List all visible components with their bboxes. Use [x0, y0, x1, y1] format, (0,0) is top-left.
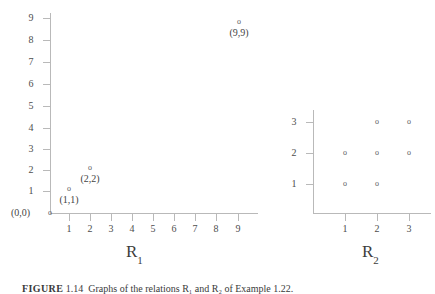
figure-caption-text: Graphs of the relations R₁ and R₂ of Exa… — [88, 283, 293, 294]
r1-origin-marker: o — [45, 209, 55, 217]
r1-x-tick — [238, 214, 239, 221]
r2-y-axis-line — [313, 110, 314, 214]
r2-x-tick-label: 1 — [338, 224, 352, 234]
r1-y-tick-label: 2 — [24, 165, 38, 175]
figure-caption-number: 1.14 — [66, 283, 84, 294]
r1-data-point-label: (2,2) — [75, 174, 105, 184]
r2-data-point: o — [372, 118, 382, 126]
r1-x-tick-label: 9 — [231, 224, 245, 234]
r2-x-axis-line — [313, 213, 431, 214]
r1-x-tick — [174, 214, 175, 221]
r2-x-tick — [377, 214, 378, 221]
r1-y-axis-line — [50, 13, 51, 214]
r1-y-tick-label: 7 — [24, 57, 38, 67]
r1-axis-title-subscript: 1 — [137, 254, 143, 266]
r1-data-point-label: (9,9) — [224, 28, 254, 38]
r1-x-tick-label: 2 — [83, 224, 97, 234]
r1-x-tick-label: 7 — [188, 224, 202, 234]
r1-x-tick-label: 8 — [209, 224, 223, 234]
r1-y-tick — [43, 40, 50, 41]
r1-y-tick — [43, 149, 50, 150]
r2-axis-title: R2 — [362, 243, 379, 266]
r1-axis-title: R1 — [126, 243, 143, 266]
r1-x-tick — [90, 214, 91, 221]
scatter-plot-r1: 9 8 7 6 5 4 3 2 1 1 2 3 4 5 6 7 8 — [0, 0, 270, 270]
figure-caption: FIGURE 1.14 Graphs of the relations R₁ a… — [22, 283, 293, 294]
figure-caption-head: FIGURE — [22, 283, 63, 294]
r2-y-tick — [306, 184, 313, 185]
r1-y-tick — [43, 170, 50, 171]
r1-x-tick-label: 6 — [167, 224, 181, 234]
r1-y-tick-label: 1 — [24, 186, 38, 196]
r1-x-axis-line — [50, 213, 258, 214]
r2-data-point: o — [340, 180, 350, 188]
r1-y-tick-label: 4 — [24, 123, 38, 133]
r2-data-point: o — [372, 180, 382, 188]
r1-x-tick — [216, 214, 217, 221]
r2-x-tick — [409, 214, 410, 221]
r2-x-tick — [345, 214, 346, 221]
r1-x-tick — [195, 214, 196, 221]
r1-y-tick-label: 3 — [24, 144, 38, 154]
r2-data-point: o — [372, 149, 382, 157]
scatter-plot-r2: 3 2 1 1 2 3 o o o o o o o R2 — [280, 0, 435, 270]
r2-y-tick-label: 1 — [287, 179, 301, 189]
r1-x-tick-label: 4 — [125, 224, 139, 234]
r1-data-point-label: (1,1) — [54, 195, 84, 205]
r1-axis-title-base: R — [126, 242, 137, 261]
r2-data-point: o — [340, 149, 350, 157]
r2-x-tick-label: 2 — [370, 224, 384, 234]
r1-x-tick — [69, 214, 70, 221]
r1-y-tick-label: 9 — [24, 13, 38, 23]
r2-y-tick — [306, 122, 313, 123]
r1-y-tick-label: 8 — [24, 35, 38, 45]
r2-y-tick — [306, 153, 313, 154]
r2-data-point: o — [404, 118, 414, 126]
r1-origin-label: (0,0) — [11, 208, 30, 218]
r1-x-tick — [111, 214, 112, 221]
r1-y-tick — [43, 62, 50, 63]
r1-x-tick — [132, 214, 133, 221]
r1-y-tick — [43, 18, 50, 19]
r1-y-tick — [43, 106, 50, 107]
r1-data-point: o — [85, 164, 95, 172]
r2-y-tick-label: 3 — [287, 117, 301, 127]
r1-x-tick-label: 3 — [104, 224, 118, 234]
r1-x-tick-label: 1 — [62, 224, 76, 234]
r1-x-tick — [153, 214, 154, 221]
r2-axis-title-base: R — [362, 242, 373, 261]
r1-y-tick — [43, 128, 50, 129]
r1-data-point: o — [64, 185, 74, 193]
r1-x-tick-label: 5 — [146, 224, 160, 234]
r2-data-point: o — [404, 149, 414, 157]
r2-x-tick-label: 3 — [402, 224, 416, 234]
r1-y-tick — [43, 84, 50, 85]
r1-y-tick-label: 5 — [24, 101, 38, 111]
r1-y-tick — [43, 191, 50, 192]
r2-axis-title-subscript: 2 — [373, 254, 379, 266]
r1-data-point: o — [234, 18, 244, 26]
r1-y-tick-label: 6 — [24, 79, 38, 89]
r2-y-tick-label: 2 — [287, 148, 301, 158]
